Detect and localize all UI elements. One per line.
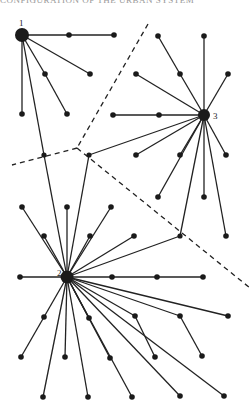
- settlement-node-a2: [111, 32, 117, 38]
- settlement-node-j3: [177, 233, 182, 238]
- settlement-node-b9: [177, 152, 183, 158]
- settlement-node-c2: [64, 204, 70, 210]
- settlement-node-b10: [223, 152, 229, 158]
- settlement-node-c8: [109, 274, 115, 280]
- settlement-node-c23: [129, 394, 135, 400]
- settlement-node-c6: [131, 233, 137, 239]
- settlement-node-b1: [155, 33, 161, 39]
- edge-1-a3: [22, 35, 90, 74]
- edge-2-c15: [67, 277, 228, 316]
- edge-2-c25: [67, 277, 224, 396]
- settlement-node-c18: [107, 355, 113, 361]
- boundary-2-3: [77, 148, 250, 288]
- settlement-node-a1: [66, 32, 72, 38]
- boundary-1-3: [77, 24, 148, 148]
- settlement-node-c11: [41, 314, 47, 320]
- settlement-node-c3: [108, 204, 114, 210]
- network-edges: [20, 35, 228, 397]
- market-area-boundaries: [12, 24, 250, 288]
- edge-3-j3: [180, 115, 204, 236]
- settlement-node-b4: [133, 71, 139, 77]
- edge-2-c17: [65, 277, 67, 357]
- settlement-node-b5: [225, 71, 231, 77]
- central-place-2: [61, 271, 74, 284]
- network-diagram: 123: [0, 0, 250, 419]
- edge-2-c24: [67, 277, 180, 396]
- settlement-node-a6: [19, 111, 25, 117]
- edge-b3-b1: [158, 36, 180, 74]
- settlement-node-c15: [225, 313, 231, 319]
- settlement-node-c14: [177, 313, 183, 319]
- settlement-node-c9: [154, 274, 160, 280]
- settlement-node-c17: [62, 354, 68, 360]
- settlement-node-b3: [177, 71, 183, 77]
- settlement-node-b11: [155, 194, 161, 200]
- edge-a4-a5: [45, 74, 67, 114]
- settlement-node-c22: [85, 394, 91, 400]
- settlement-node-c12: [86, 315, 92, 321]
- central-place-label-1: 1: [19, 18, 24, 28]
- settlement-node-j2: [86, 152, 91, 157]
- settlement-nodes: [17, 32, 231, 400]
- edge-c14-c20: [180, 316, 202, 356]
- settlement-node-c5: [87, 233, 93, 239]
- edge-3-b13: [204, 115, 226, 236]
- settlement-node-c10: [200, 274, 206, 280]
- settlement-node-b13: [223, 233, 229, 239]
- settlement-node-c7: [17, 274, 23, 280]
- settlement-node-a3: [87, 71, 93, 77]
- settlement-node-c13: [132, 313, 138, 319]
- central-place-1: [15, 28, 29, 42]
- settlement-node-c16: [18, 354, 24, 360]
- central-place-label-2: 2: [57, 268, 62, 278]
- edge-3-b5: [204, 74, 228, 115]
- edge-c11-c16: [21, 317, 44, 357]
- central-place-3: [198, 109, 210, 121]
- edge-3-b3: [180, 74, 204, 115]
- settlement-node-c20: [199, 353, 205, 359]
- settlement-node-b12: [201, 194, 207, 200]
- settlement-node-c24: [177, 393, 183, 399]
- settlement-node-c25: [221, 393, 227, 399]
- settlement-node-c21: [40, 394, 46, 400]
- edge-2-c21: [43, 277, 67, 397]
- settlement-node-a4: [42, 71, 48, 77]
- edge-3-b4: [136, 74, 204, 115]
- settlement-node-a5: [64, 111, 70, 117]
- settlement-node-b2: [201, 33, 207, 39]
- settlement-node-c19: [152, 354, 158, 360]
- settlement-node-c1: [19, 204, 25, 210]
- central-place-label-3: 3: [213, 111, 218, 121]
- settlement-node-b6: [156, 112, 162, 118]
- settlement-node-c4: [41, 233, 47, 239]
- settlement-node-b8: [133, 152, 139, 158]
- settlement-node-j1: [41, 152, 46, 157]
- settlement-node-b7: [110, 112, 116, 118]
